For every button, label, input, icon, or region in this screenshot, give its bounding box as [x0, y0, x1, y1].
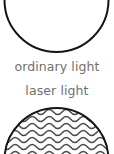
light-comparison-figure: ordinary light laser light — [0, 0, 114, 154]
ordinary-light-diagram — [0, 0, 114, 56]
laser-light-svg — [0, 100, 114, 154]
laser-light-label: laser light — [0, 84, 114, 98]
ordinary-light-label: ordinary light — [0, 60, 114, 74]
ordinary-circle-fill — [5, 0, 109, 52]
ordinary-light-svg — [0, 0, 114, 56]
laser-light-diagram — [0, 100, 114, 154]
